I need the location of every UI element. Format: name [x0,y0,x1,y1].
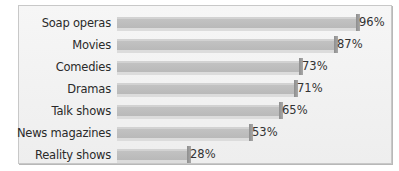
bar [117,105,279,116]
bar [117,61,299,72]
value-label: 71% [297,81,323,95]
value-label: 87% [337,37,363,51]
bar [117,149,187,160]
value-label: 73% [302,59,328,73]
category-label: Soap operas [42,16,111,30]
bar [117,17,356,28]
bar-row: Comedies73% [19,58,391,78]
bar-bottom-face [117,138,253,141]
bar-row: Talk shows65% [19,102,391,122]
bar-row: News magazines53% [19,124,391,144]
category-label: Comedies [56,60,111,74]
category-label: Talk shows [52,104,111,118]
category-label: News magazines [17,126,111,140]
bar-bottom-face [117,72,303,75]
bar [117,39,334,50]
bar-row: Reality shows28% [19,146,391,166]
value-label: 65% [282,103,308,117]
bar-bottom-face [117,50,338,53]
bar-bottom-face [117,28,360,31]
category-label: Reality shows [35,148,111,162]
bar [117,127,249,138]
category-label: Dramas [67,82,111,96]
bar-bottom-face [117,116,283,119]
bar-bottom-face [117,160,191,163]
bar-row: Movies87% [19,36,391,56]
bar [117,83,294,94]
category-label: Movies [72,38,111,52]
value-label: 96% [359,15,385,29]
chart-panel: Soap operas96%Movies87%Comedies73%Dramas… [18,5,392,164]
value-label: 28% [190,147,216,161]
bar-row: Dramas71% [19,80,391,100]
bar-bottom-face [117,94,298,97]
value-label: 53% [252,125,278,139]
bar-row: Soap operas96% [19,14,391,34]
